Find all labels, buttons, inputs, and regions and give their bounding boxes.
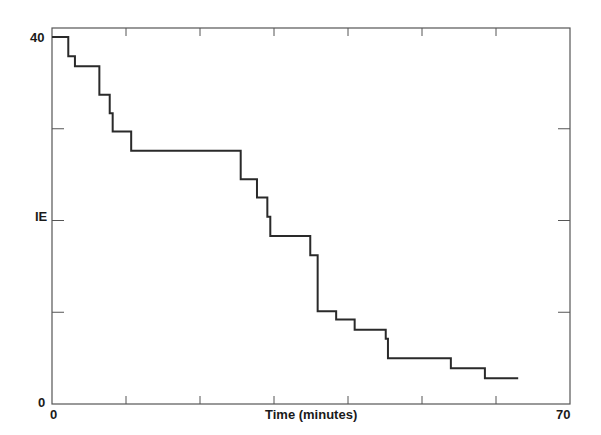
plot-frame	[52, 28, 570, 404]
x-tick-label-70: 70	[556, 408, 570, 421]
x-axis-label: Time (minutes)	[265, 408, 357, 421]
y-tick-label-0: 0	[38, 396, 45, 409]
y-tick-label-40: 40	[30, 31, 44, 44]
ie-step-line	[52, 37, 518, 378]
axis-ticks	[52, 28, 570, 404]
y-axis-label: IE	[35, 210, 47, 223]
step-chart	[0, 0, 601, 435]
x-tick-label-0: 0	[50, 408, 57, 421]
